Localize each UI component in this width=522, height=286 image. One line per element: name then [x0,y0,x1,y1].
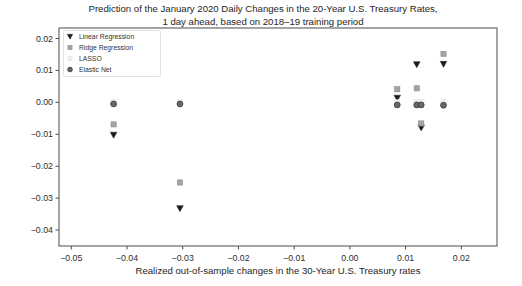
elastic-net-legend-marker-icon [68,67,73,72]
legend-label: LASSO [79,55,102,62]
point-elastic-net [418,102,424,108]
point-ridge-regression [111,122,116,127]
legend: Linear RegressionRidge RegressionLASSOEl… [64,31,161,77]
legend-label: Ridge Regression [79,44,133,52]
y-tick-label: 0.00 [36,97,53,107]
point-elastic-net [111,101,117,107]
point-ridge-regression [177,180,182,185]
point-elastic-net [177,101,183,107]
chart-title-line1: Prediction of the January 2020 Daily Cha… [89,3,438,14]
x-axis-label: Realized out-of-sample changes in the 30… [136,265,421,276]
x-tick-label: −0.04 [116,253,138,263]
lasso-legend-marker-icon [68,56,72,60]
x-tick-label: −0.05 [60,253,82,263]
point-ridge-regression [395,87,400,92]
point-ridge-regression [414,86,419,91]
y-tick-label: 0.01 [36,65,53,75]
y-tick-label: −0.04 [31,225,53,235]
ridge-regression-legend-marker-icon [68,45,72,49]
legend-label: Elastic Net [79,66,112,73]
x-tick-label: 0.00 [341,253,358,263]
point-ridge-regression [419,121,424,126]
point-ridge-regression [441,51,446,56]
x-tick-label: −0.02 [227,253,249,263]
y-tick-label: −0.03 [31,193,53,203]
y-tick-label: 0.02 [36,34,53,44]
y-tick-label: −0.01 [31,129,53,139]
scatter-plot: Prediction of the January 2020 Daily Cha… [0,0,522,286]
legend-label: Linear Regression [79,33,134,41]
x-tick-label: −0.03 [172,253,194,263]
y-tick-label: −0.02 [31,161,53,171]
point-elastic-net [441,102,447,108]
x-tick-label: 0.01 [397,253,414,263]
chart-title-line2: 1 day ahead, based on 2018–19 training p… [162,16,363,27]
figure: Prediction of the January 2020 Daily Cha… [0,0,522,286]
point-elastic-net [394,102,400,108]
x-tick-label: −0.01 [283,253,305,263]
x-tick-label: 0.02 [453,253,470,263]
